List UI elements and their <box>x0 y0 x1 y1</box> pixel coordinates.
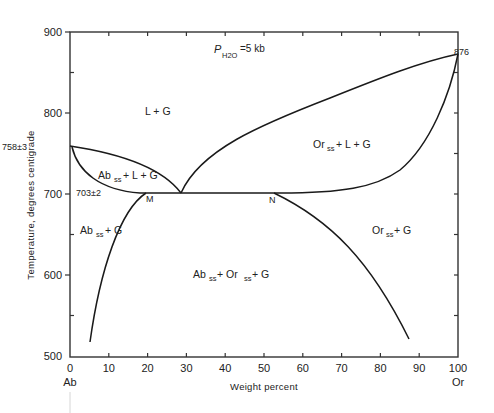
x-tick-90: 90 <box>413 362 425 374</box>
x-tick-10: 10 <box>103 362 115 374</box>
svg-text:+ G: + G <box>105 224 122 236</box>
x-tick-60: 60 <box>297 362 309 374</box>
or-melting-label: 876 <box>454 47 469 57</box>
region-or-g: Or ss + G <box>372 224 411 239</box>
svg-text:ss: ss <box>244 274 252 283</box>
point-m-label: M <box>146 194 154 204</box>
title-subscript: H2O <box>222 51 238 60</box>
x-end-label-or: Or <box>452 376 465 388</box>
phase-diagram: 900 800 700 600 500 0 10 20 30 40 50 60 … <box>0 0 494 413</box>
x-tick-30: 30 <box>180 362 192 374</box>
svg-text:Ab: Ab <box>98 169 111 181</box>
svg-text:ss: ss <box>386 230 394 239</box>
point-n-label: N <box>269 195 276 205</box>
x-end-label-ab: Ab <box>63 376 76 388</box>
y-axis-title: Temperature, degrees centigrade <box>25 130 36 279</box>
svg-text:+ L + G: + L + G <box>336 138 371 150</box>
x-tick-80: 80 <box>374 362 386 374</box>
or-solvus-curve <box>274 193 409 339</box>
y-tick-700: 700 <box>44 188 62 200</box>
svg-text:+ G: + G <box>252 268 269 280</box>
x-tick-40: 40 <box>219 362 231 374</box>
region-or-l-g: Or ss + L + G <box>313 138 371 153</box>
y-tick-500: 500 <box>44 350 62 362</box>
svg-text:ss: ss <box>327 144 335 153</box>
x-axis-title: Weight percent <box>230 381 298 392</box>
x-tick-20: 20 <box>141 362 153 374</box>
svg-text:Ab: Ab <box>193 268 206 280</box>
region-ab-l-g: Ab ss + L + G <box>98 169 158 184</box>
region-ab-or-g: Ab ss + Or ss + G <box>193 268 269 283</box>
title-rest: =5 kb <box>240 43 265 54</box>
svg-text:+ G: + G <box>394 224 411 236</box>
svg-text:ss: ss <box>209 274 217 283</box>
region-l-g: L + G <box>145 105 171 117</box>
svg-text:Or: Or <box>372 224 384 236</box>
svg-text:+ Or: + Or <box>217 268 238 280</box>
x-tick-70: 70 <box>335 362 347 374</box>
svg-text:+ L + G: + L + G <box>123 169 158 181</box>
svg-text:Or: Or <box>313 138 325 150</box>
x-tick-100: 100 <box>449 362 467 374</box>
plot-frame <box>70 32 458 357</box>
y-tick-800: 800 <box>44 107 62 119</box>
ab-melting-label: 758±3 <box>2 142 27 152</box>
or-liquidus-curve <box>181 54 458 193</box>
svg-text:Ab: Ab <box>80 224 93 236</box>
chart-title: P H2O =5 kb <box>214 43 265 60</box>
x-tick-50: 50 <box>258 362 270 374</box>
y-tick-900: 900 <box>44 26 62 38</box>
y-tick-labels: 900 800 700 600 500 <box>44 26 62 362</box>
svg-text:ss: ss <box>114 175 122 184</box>
y-tick-600: 600 <box>44 269 62 281</box>
ab-solvus-curve <box>90 193 146 342</box>
x-tick-0: 0 <box>67 362 73 374</box>
phase-boundaries <box>70 54 458 342</box>
title-symbol: P <box>214 43 222 55</box>
or-solidus-curve <box>181 54 458 193</box>
svg-text:ss: ss <box>96 230 104 239</box>
solidus-temp-label: 703±2 <box>76 188 101 198</box>
